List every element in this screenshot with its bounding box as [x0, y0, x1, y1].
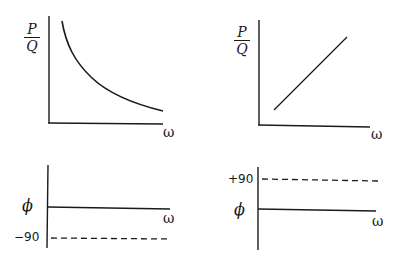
panel-top-right-line	[274, 37, 347, 110]
y-label-denominator: Q	[234, 41, 250, 56]
panel-top-right-axes	[258, 20, 370, 127]
diagram-canvas: P Q ω P Q ω ϕ −90 ω +90 ϕ ω	[0, 0, 400, 264]
panel-bottom-left-dashed-label: −90	[14, 231, 39, 243]
panel-top-left-curve	[62, 21, 163, 111]
y-label-numerator: P	[234, 25, 250, 41]
panel-top-left-axes	[48, 16, 163, 124]
diagram-graphics	[0, 0, 400, 264]
panel-top-left-x-label: ω	[163, 125, 174, 139]
panel-bottom-right-dashed-label: +90	[228, 173, 253, 185]
panel-bottom-left-x-label: ω	[163, 211, 174, 225]
panel-bottom-right-y-label: ϕ	[234, 202, 245, 218]
y-label-numerator: P	[24, 22, 40, 38]
panel-top-right-x-label: ω	[371, 127, 382, 141]
panel-top-left-y-label: P Q	[24, 22, 40, 53]
panel-top-right-y-label: P Q	[234, 25, 250, 56]
panel-bottom-right-dashed-line	[262, 179, 378, 181]
panel-bottom-left-y-label: ϕ	[22, 198, 33, 214]
panel-bottom-left-dashed-line	[51, 238, 170, 239]
panel-bottom-left-axes	[47, 165, 170, 248]
panel-bottom-right-x-label: ω	[372, 214, 383, 228]
y-label-denominator: Q	[24, 38, 40, 53]
